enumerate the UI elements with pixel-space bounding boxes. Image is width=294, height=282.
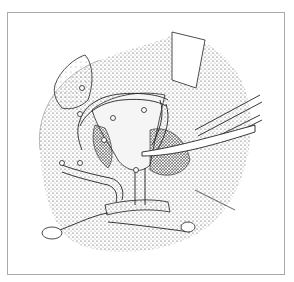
surgical-illustration (0, 0, 294, 282)
